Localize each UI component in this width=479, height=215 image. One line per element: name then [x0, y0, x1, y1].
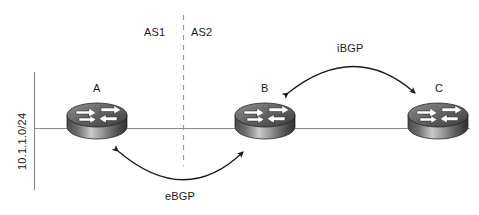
- as1-label: AS1: [144, 26, 165, 38]
- router-icon-b[interactable]: [235, 103, 295, 139]
- network-diagram-canvas: 10.1.1.0/24 AS1 AS2 A B C eBGP iBGP: [0, 0, 479, 215]
- ibgp-session-arc: [288, 67, 415, 94]
- subnet-label: 10.1.1.0/24: [16, 113, 28, 170]
- router-label-a: A: [93, 82, 101, 94]
- router-icon-c[interactable]: [408, 103, 468, 139]
- ebgp-label: eBGP: [165, 190, 195, 202]
- ibgp-label: iBGP: [337, 42, 363, 54]
- as2-label: AS2: [191, 26, 212, 38]
- router-label-c: C: [435, 82, 443, 94]
- router-icon-a[interactable]: [67, 103, 127, 139]
- router-label-b: B: [261, 82, 269, 94]
- ebgp-session-arc: [118, 151, 243, 180]
- diagram-svg: [0, 0, 479, 215]
